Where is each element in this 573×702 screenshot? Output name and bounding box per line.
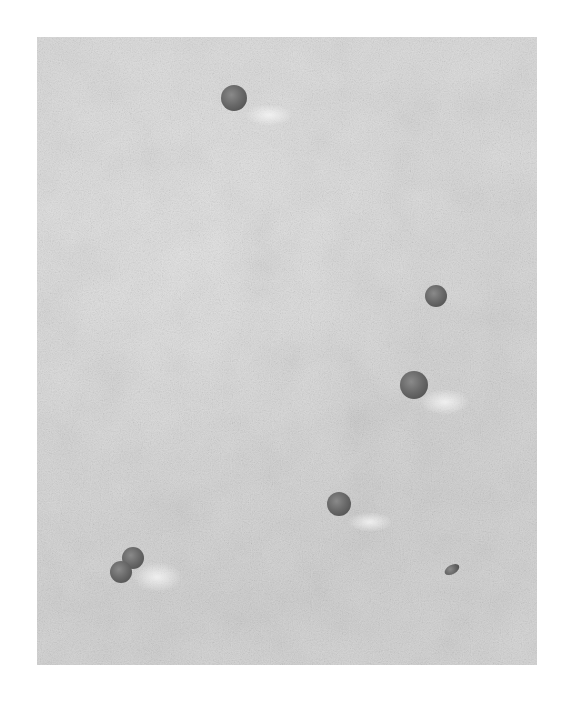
particle-6 — [110, 561, 132, 583]
particle-halo — [420, 389, 470, 415]
particle-3 — [400, 371, 428, 399]
particle-halo — [347, 512, 393, 532]
particle-2 — [425, 285, 447, 307]
particle-halo — [244, 104, 294, 126]
particle-4 — [327, 492, 351, 516]
micrograph-image — [37, 37, 537, 665]
particle-1 — [221, 85, 247, 111]
